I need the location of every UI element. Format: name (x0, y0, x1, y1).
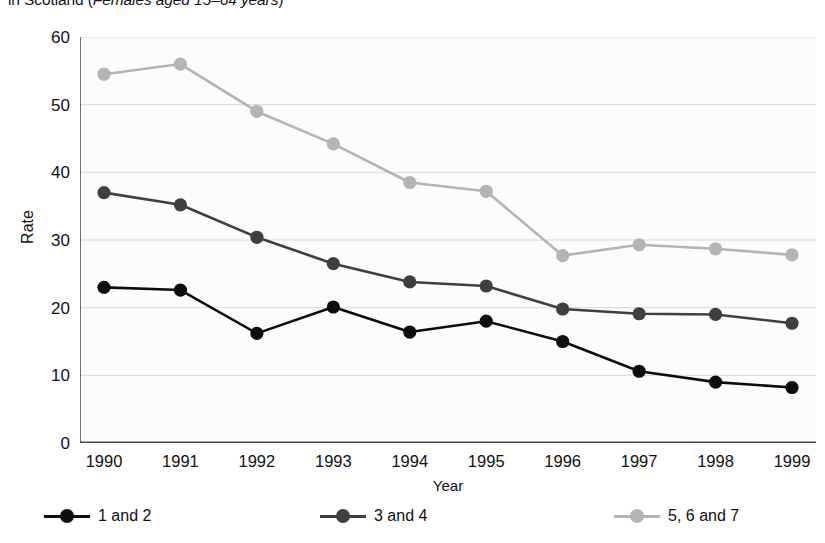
legend-label: 3 and 4 (374, 507, 427, 525)
data-point (327, 137, 340, 150)
data-point (633, 238, 646, 251)
x-axis-tick-label: 1990 (64, 452, 144, 471)
legend-swatch (614, 506, 660, 526)
y-axis-tick-label: 50 (24, 97, 70, 114)
data-point (709, 242, 722, 255)
x-axis-tick-label: 1996 (523, 452, 603, 471)
legend-label: 5, 6 and 7 (668, 507, 739, 525)
data-point (97, 68, 110, 81)
data-point (250, 231, 263, 244)
legend-swatch (44, 506, 90, 526)
data-point (403, 325, 416, 338)
y-axis-tick-label: 0 (24, 435, 70, 452)
legend-label: 1 and 2 (98, 507, 151, 525)
x-axis-tick-label: 1994 (370, 452, 450, 471)
x-axis-tick-label: 1993 (293, 452, 373, 471)
legend-entry[interactable]: 5, 6 and 7 (614, 503, 739, 529)
legend-entry[interactable]: 1 and 2 (44, 503, 151, 529)
plot-svg (80, 37, 816, 443)
data-point (327, 300, 340, 313)
x-axis-tick-label: 1999 (752, 452, 825, 471)
x-axis-tick-label: 1995 (446, 452, 526, 471)
x-axis-tick-labels: 1990199119921993199419951996199719981999 (80, 452, 816, 476)
legend-marker-dot-icon (630, 509, 644, 523)
legend-entry[interactable]: 3 and 4 (320, 503, 427, 529)
legend-marker-dot-icon (60, 509, 74, 523)
chart-title: in Scotland (Females aged 15–64 years) (8, 0, 283, 9)
data-point (709, 308, 722, 321)
data-point (480, 315, 493, 328)
data-point (174, 57, 187, 70)
data-point (633, 307, 646, 320)
data-point (633, 365, 646, 378)
y-axis-tick-label: 20 (24, 300, 70, 317)
data-point (174, 198, 187, 211)
data-point (556, 302, 569, 315)
x-axis-tick-label: 1997 (599, 452, 679, 471)
chart-figure: in Scotland (Females aged 15–64 years) R… (0, 0, 825, 543)
x-axis-tick-label: 1992 (217, 452, 297, 471)
x-axis-tick-label: 1991 (140, 452, 220, 471)
data-point (327, 257, 340, 270)
data-point (480, 279, 493, 292)
y-axis-tick-label: 40 (24, 164, 70, 181)
legend-marker-dot-icon (336, 509, 350, 523)
x-axis-tick-label: 1998 (676, 452, 756, 471)
data-point (556, 249, 569, 262)
y-axis-tick-label: 10 (24, 367, 70, 384)
data-point (709, 376, 722, 389)
data-point (250, 105, 263, 118)
data-point (250, 327, 263, 340)
y-axis-tick-labels: 0102030405060 (24, 37, 70, 443)
data-point (480, 185, 493, 198)
chart-legend: 1 and 23 and 45, 6 and 7 (44, 503, 784, 533)
chart-title-prefix: in Scotland ( (8, 0, 93, 8)
data-point (785, 317, 798, 330)
chart-title-subject: Females aged 15–64 years (93, 0, 278, 8)
data-point (556, 335, 569, 348)
x-axis-title: Year (80, 477, 816, 494)
y-axis-tick-label: 60 (24, 29, 70, 46)
chart-title-suffix: ) (278, 0, 283, 8)
y-axis-tick-label: 30 (24, 232, 70, 249)
data-point (403, 176, 416, 189)
data-point (785, 248, 798, 261)
legend-swatch (320, 506, 366, 526)
data-point (97, 186, 110, 199)
data-point (97, 281, 110, 294)
data-point (403, 275, 416, 288)
plot-area (80, 37, 816, 443)
data-point (785, 381, 798, 394)
data-point (174, 283, 187, 296)
